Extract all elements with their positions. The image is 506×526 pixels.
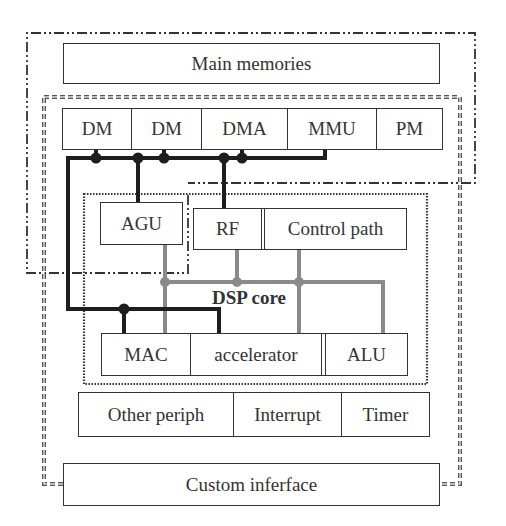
accelerator-block: accelerator [191, 334, 322, 375]
dm-block-2: DM [132, 109, 202, 149]
mac-block: MAC [102, 334, 191, 375]
peripherals-row: Other periph Interrupt Timer [78, 392, 430, 437]
agu-block: AGU [100, 202, 183, 245]
alu-block: ALU [325, 334, 407, 375]
timer-block: Timer [342, 393, 429, 436]
memory-row: DM DM DMA MMU PM [62, 108, 443, 150]
mmu-block: MMU [288, 109, 377, 149]
pm-block: PM [377, 109, 442, 149]
dm-block-1: DM [63, 109, 132, 149]
dsp-core-label: DSP core [212, 287, 286, 309]
other-periph-block: Other periph [79, 393, 234, 436]
dma-block: DMA [202, 109, 288, 149]
rf-control-row: RF Control path [193, 208, 407, 250]
rf-block: RF [194, 209, 262, 249]
execution-units-row: MAC accelerator ALU [101, 333, 408, 376]
custom-interface-block: Custom inferface [63, 463, 440, 506]
interrupt-block: Interrupt [234, 393, 342, 436]
main-memories-block: Main memories [63, 43, 440, 84]
control-path-block: Control path [264, 209, 406, 249]
